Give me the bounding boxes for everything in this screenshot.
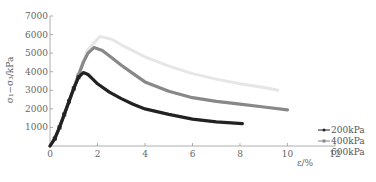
- x-tick-label: 0: [47, 149, 53, 159]
- y-tick-label: 3000: [25, 85, 48, 95]
- legend-label-400kPa: 400kPa: [331, 136, 365, 146]
- x-tick-label: 4: [142, 149, 148, 159]
- series-line-600kPa: [50, 36, 278, 146]
- x-axis-label: ε/%: [297, 158, 314, 168]
- legend-label-200kPa: 200kPa: [331, 125, 365, 135]
- y-tick-label: 1000: [25, 122, 48, 132]
- y-tick-label: 5000: [25, 48, 48, 58]
- x-tick-label: 10: [282, 149, 294, 159]
- x-tick-label: 2: [95, 149, 101, 159]
- axes: 0246810121000200030004000500060007000: [25, 11, 341, 159]
- series-group: [50, 36, 288, 146]
- x-tick-label: 8: [237, 149, 243, 159]
- legend-label-600kPa: 600kPa: [331, 147, 365, 157]
- y-tick-label: 7000: [25, 11, 48, 21]
- series-line-400kPa: [50, 48, 288, 146]
- y-axis-label: σ₁−σ₃/kPa: [5, 56, 15, 103]
- y-tick-label: 4000: [25, 67, 48, 77]
- x-tick-label: 6: [190, 149, 196, 159]
- legend: 200kPa400kPa600kPa: [318, 125, 365, 157]
- y-tick-label: 6000: [25, 30, 48, 40]
- stress-strain-chart: 0246810121000200030004000500060007000 20…: [0, 0, 376, 182]
- y-tick-label: 2000: [25, 104, 48, 114]
